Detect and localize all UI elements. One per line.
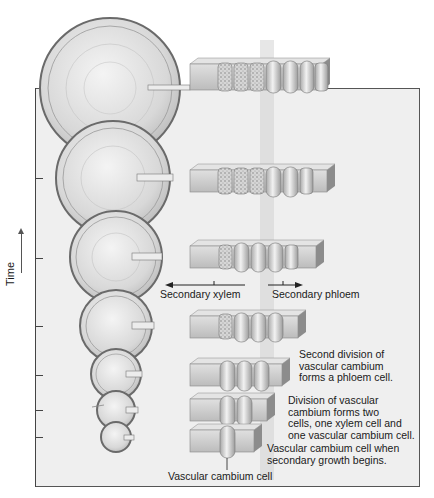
stem-cross-sections	[40, 18, 190, 452]
cell-row-2	[190, 393, 275, 426]
label-secondary-xylem: Secondary xylem	[160, 289, 241, 301]
cell-row-1	[190, 424, 262, 470]
cell-row-5	[190, 240, 324, 272]
label-second-division: Second division of vascular cambium form…	[299, 349, 393, 384]
stem-1	[101, 422, 134, 452]
xylem-arrow	[165, 281, 245, 288]
cell-row-7	[190, 58, 330, 93]
label-vascular-cambium-cell: Vascular cambium cell	[168, 471, 272, 483]
cell-row-3	[190, 358, 290, 391]
label-secondary-phloem: Secondary phloem	[272, 289, 360, 301]
label-initial-cell: Vascular cambium cell when secondary gro…	[267, 443, 399, 466]
label-first-division: Division of vascular cambium forms two c…	[288, 395, 415, 441]
cell-row-6	[190, 164, 335, 197]
cell-row-4	[190, 310, 306, 342]
